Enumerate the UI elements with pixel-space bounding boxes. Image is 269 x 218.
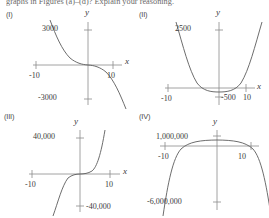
axis-label-y-II: y	[216, 7, 220, 17]
ytick-top-IV: 1,000,000	[156, 132, 188, 141]
ytick-bottom-I: -3000	[38, 93, 57, 102]
xtick-right-II: 10	[243, 93, 251, 102]
ytick-top-II: 2500	[175, 24, 191, 33]
panel-label-III: (III)	[4, 112, 14, 121]
ytick-bottom-III: -40,000	[86, 202, 111, 211]
ytick-bottom-IV: -6,000,000	[147, 197, 182, 206]
prompt-text: graphs in Figures (a)–(d)? Explain your …	[6, 0, 264, 7]
panel-label-II: (II)	[139, 10, 147, 19]
ytick-bottom-II: -500	[221, 93, 236, 102]
xtick-left-IV: -10	[158, 152, 169, 161]
graph-panel-IV: (IV) y 1,000,000 -6,000,000 -10 10	[135, 110, 269, 218]
figure-page: graphs in Figures (a)–(d)? Explain your …	[0, 0, 269, 218]
xtick-right-I: 10	[107, 71, 115, 80]
axis-label-x-III: x	[123, 166, 127, 176]
axis-label-y-III: y	[74, 116, 78, 126]
axis-label-x-I: x	[125, 56, 129, 66]
graph-panel-I: (I) y x 3000 -3000 -10 10	[0, 8, 135, 112]
graph-svg-III	[0, 110, 135, 218]
axis-label-y-I: y	[85, 7, 89, 17]
xtick-right-IV: 10	[238, 152, 246, 161]
xtick-right-III: 10	[105, 180, 113, 189]
ytick-top-III: 40,000	[33, 132, 55, 141]
panel-label-IV: (IV)	[139, 112, 150, 121]
axis-label-x-II: x	[257, 81, 261, 91]
graph-panel-III: (III) y x 40,000 -40,000 -10 10	[0, 110, 135, 218]
xtick-left-III: -10	[25, 180, 36, 189]
ytick-top-I: 3000	[42, 24, 58, 33]
xtick-left-I: -10	[29, 71, 40, 80]
panel-label-I: (I)	[6, 10, 12, 19]
graph-panel-II: (II) y x 2500 -500 -10 10	[135, 8, 269, 112]
graph-svg-I	[0, 8, 135, 112]
xtick-left-II: -10	[161, 94, 172, 103]
axis-label-y-IV: y	[213, 116, 217, 126]
